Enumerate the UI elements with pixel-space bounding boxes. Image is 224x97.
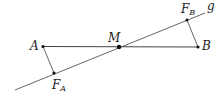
point-M xyxy=(117,45,121,49)
point-FA xyxy=(52,71,55,74)
label-B: B xyxy=(201,39,211,53)
label-FA: FA xyxy=(51,78,66,93)
point-B xyxy=(196,45,199,48)
line-g xyxy=(15,13,205,90)
point-A xyxy=(41,45,44,48)
geometry-diagram: g A M B FA FB xyxy=(0,0,224,97)
label-FB: FB xyxy=(180,2,195,17)
point-FB xyxy=(185,18,188,21)
label-M: M xyxy=(107,31,121,45)
label-g: g xyxy=(207,0,215,13)
perpendicular-B-FB xyxy=(187,20,198,47)
label-A: A xyxy=(29,39,39,53)
perpendicular-A-FA xyxy=(43,47,54,74)
